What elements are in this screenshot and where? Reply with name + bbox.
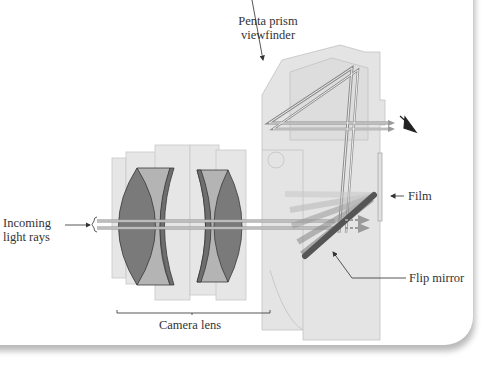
camera-diagram — [0, 0, 481, 365]
label-pentaprism-line2: viewfinder — [222, 28, 314, 42]
label-flip-mirror: Flip mirror — [409, 271, 464, 285]
label-pentaprism-line1: Penta prism — [222, 14, 314, 28]
label-pentaprism: Penta prism viewfinder — [222, 14, 314, 42]
label-incoming-line1: Incoming — [3, 216, 51, 230]
label-camera-lens: Camera lens — [140, 318, 240, 332]
eye-icon — [400, 116, 416, 132]
label-incoming-line2: light rays — [3, 230, 51, 244]
label-film: Film — [408, 189, 432, 203]
label-incoming-light: Incoming light rays — [3, 216, 51, 244]
